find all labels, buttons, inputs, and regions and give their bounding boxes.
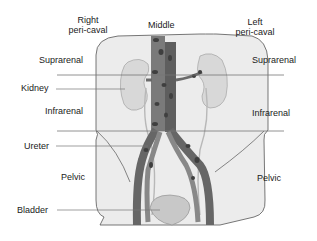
label-ureter: Ureter bbox=[24, 141, 49, 151]
label-right-line2: peri-caval bbox=[62, 25, 114, 35]
label-left-line2: peri-caval bbox=[229, 27, 281, 37]
label-left-peri-caval: Left peri-caval bbox=[229, 17, 281, 37]
label-infrarenal-right-side: Infrarenal bbox=[45, 106, 83, 116]
label-left-line1: Left bbox=[229, 17, 281, 27]
label-right-line1: Right bbox=[62, 15, 114, 25]
label-middle: Middle bbox=[148, 20, 175, 30]
label-suprarenal-left-side: Suprarenal bbox=[252, 55, 296, 65]
label-pelvic-right-side: Pelvic bbox=[61, 172, 85, 182]
label-kidney: Kidney bbox=[21, 83, 49, 93]
label-suprarenal-right-side: Suprarenal bbox=[39, 55, 83, 65]
label-pelvic-left-side: Pelvic bbox=[257, 173, 281, 183]
label-bladder: Bladder bbox=[17, 205, 48, 215]
label-right-peri-caval: Right peri-caval bbox=[62, 15, 114, 35]
body-outline bbox=[96, 34, 268, 225]
label-infrarenal-left-side: Infrarenal bbox=[252, 108, 290, 118]
